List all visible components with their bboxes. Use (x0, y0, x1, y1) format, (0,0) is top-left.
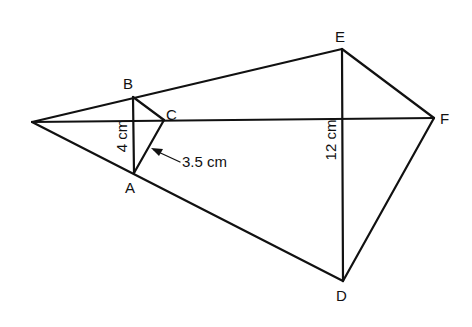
label-A: A (125, 179, 135, 196)
side-EF (342, 49, 434, 118)
side-FD (343, 118, 434, 281)
label-B: B (123, 75, 133, 92)
ray-apex-to-D (32, 122, 343, 281)
label-C: C (166, 106, 177, 123)
axis-apex-to-F (32, 118, 434, 122)
side-CA (134, 120, 164, 173)
label-D: D (336, 287, 347, 304)
dim-AC: 3.5 cm (182, 153, 227, 170)
dim-AB: 4 cm (113, 120, 130, 153)
ray-apex-to-E (32, 49, 342, 122)
side-BC (133, 97, 164, 120)
label-E: E (335, 28, 345, 45)
label-F: F (440, 110, 449, 127)
arrow-head-icon (151, 148, 163, 156)
similar-triangles-diagram: B C A E F D 4 cm 3.5 cm 12 cm (0, 0, 472, 327)
dim-DE: 12 cm (322, 120, 339, 161)
side-DE (342, 49, 343, 281)
side-AB (133, 97, 134, 173)
